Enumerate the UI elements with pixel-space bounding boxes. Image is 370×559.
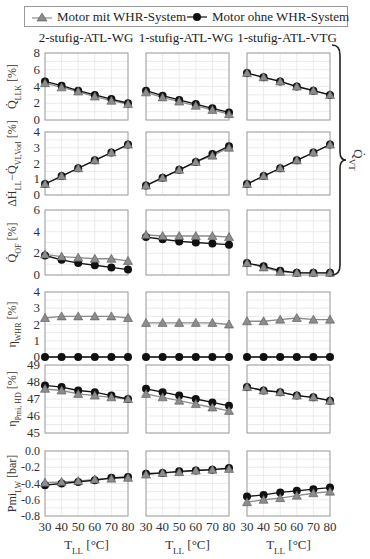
svg-text:Q̇VT: Q̇VT — [347, 149, 366, 171]
y-tick-label: 8 — [34, 45, 41, 60]
y-tick-label: 4 — [34, 224, 41, 239]
y-tick-label: 4 — [34, 124, 41, 139]
x-tick-label: 40 — [156, 519, 169, 534]
plot-panel — [142, 53, 234, 120]
y-tick-label: 47 — [27, 391, 41, 406]
y-tick-label: 1 — [34, 171, 41, 186]
x-tick-label: 40 — [55, 519, 68, 534]
data-point-without-whr — [41, 353, 49, 361]
data-point-without-whr — [225, 353, 233, 361]
plot-panel — [41, 365, 133, 433]
y-tick-label: 2 — [34, 95, 41, 110]
y-axis-label: ηPmi, HD [%] — [5, 371, 23, 427]
x-tick-label: 80 — [122, 519, 135, 534]
y-tick-label: 6 — [34, 62, 41, 77]
data-point-without-whr — [107, 263, 115, 271]
plot-panel — [243, 53, 335, 120]
y-axis-label: ΔḢLL−Q̇VI,Vorl [%] — [5, 120, 23, 207]
data-point-without-whr — [309, 353, 317, 361]
data-point-without-whr — [142, 353, 150, 361]
y-tick-label: 49 — [27, 357, 40, 372]
y-axis-label: Q̇LLK [%] — [5, 64, 23, 109]
data-point-without-whr — [326, 353, 334, 361]
y-tick-label: 48 — [27, 374, 40, 389]
x-tick-label: 70 — [307, 519, 320, 534]
plot-panel — [142, 451, 234, 516]
data-point-without-whr — [58, 353, 66, 361]
data-point-without-whr — [192, 353, 200, 361]
y-axis-label: PmiLW [bar] — [5, 455, 23, 513]
x-tick-label: 60 — [189, 519, 202, 534]
plot-panel — [142, 292, 234, 361]
y-tick-label: -0.6 — [21, 493, 40, 507]
y-tick-label: 3 — [34, 140, 41, 155]
data-point-without-whr — [107, 353, 115, 361]
y-tick-label: -0.2 — [21, 460, 40, 474]
x-tick-label: 30 — [39, 519, 52, 534]
x-tick-label: 80 — [223, 519, 236, 534]
data-point-without-whr — [175, 353, 183, 361]
data-point-without-whr — [293, 353, 301, 361]
data-point-without-whr — [91, 353, 99, 361]
data-point-without-whr — [276, 353, 284, 361]
y-axis-label: Q̇OF [%] — [5, 223, 23, 263]
plot-panel — [243, 451, 335, 516]
data-point-without-whr — [74, 353, 82, 361]
x-tick-label: 60 — [290, 519, 303, 534]
x-tick-label: 40 — [257, 519, 270, 534]
y-tick-label: 2 — [34, 156, 41, 171]
brace-icon — [332, 45, 346, 275]
x-axis-label: TLL [°C] — [64, 537, 109, 556]
x-tick-label: 50 — [173, 519, 186, 534]
data-point-without-whr — [208, 353, 216, 361]
x-tick-label: 30 — [140, 519, 153, 534]
chart-grid: 02468Q̇LLK [%]01234ΔḢLL−Q̇VI,Vorl [%]024… — [0, 0, 370, 559]
data-point-without-whr — [124, 353, 132, 361]
y-tick-label: 4 — [34, 284, 41, 299]
y-tick-label: 46 — [27, 408, 41, 423]
y-tick-label: 3 — [34, 300, 41, 315]
plot-panel — [243, 210, 335, 277]
y-tick-label: -0.4 — [21, 477, 40, 491]
y-tick-label: 0.0 — [25, 444, 40, 458]
plot-panel — [41, 451, 133, 516]
y-tick-label: 2 — [34, 317, 41, 332]
data-point-without-whr — [124, 266, 132, 274]
plot-panel — [41, 210, 133, 275]
svg-text:Q̇OF [%]: Q̇OF [%] — [5, 223, 23, 263]
x-tick-label: 30 — [241, 519, 254, 534]
svg-text:PmiLW [bar]: PmiLW [bar] — [5, 455, 23, 513]
x-tick-label: 70 — [105, 519, 118, 534]
plot-panel — [243, 132, 335, 195]
x-tick-label: 80 — [324, 519, 337, 534]
plot-panel — [243, 365, 335, 433]
brace-label: Q̇VT — [347, 149, 366, 171]
x-axis-label: TLL [°C] — [165, 537, 210, 556]
y-tick-label: 0 — [34, 267, 41, 282]
data-point-without-whr — [225, 241, 233, 249]
data-point-without-whr — [208, 240, 216, 248]
y-tick-label: 0 — [34, 187, 41, 202]
plot-panel — [142, 132, 234, 195]
svg-text:ηWHR [%]: ηWHR [%] — [5, 302, 23, 348]
svg-text:Q̇LLK [%]: Q̇LLK [%] — [5, 64, 23, 109]
y-tick-label: 6 — [34, 202, 41, 217]
plot-panel — [243, 292, 335, 361]
svg-text:ΔḢLL−Q̇VI,Vorl [%]: ΔḢLL−Q̇VI,Vorl [%] — [5, 120, 23, 207]
data-point-without-whr — [260, 353, 268, 361]
plot-panel — [41, 53, 133, 120]
x-tick-label: 50 — [274, 519, 287, 534]
y-tick-label: 2 — [34, 245, 41, 260]
y-tick-label: -0.8 — [21, 509, 40, 523]
data-point-without-whr — [243, 353, 251, 361]
plot-panel — [41, 132, 133, 195]
y-axis-label: ηWHR [%] — [5, 302, 23, 348]
plot-panel — [41, 292, 133, 361]
plot-panel — [142, 210, 234, 275]
y-tick-label: 4 — [34, 79, 41, 94]
plot-panel — [142, 365, 234, 433]
svg-text:ηPmi, HD [%]: ηPmi, HD [%] — [5, 371, 23, 427]
x-tick-label: 70 — [206, 519, 219, 534]
data-point-without-whr — [159, 353, 167, 361]
y-tick-label: 45 — [27, 425, 40, 440]
